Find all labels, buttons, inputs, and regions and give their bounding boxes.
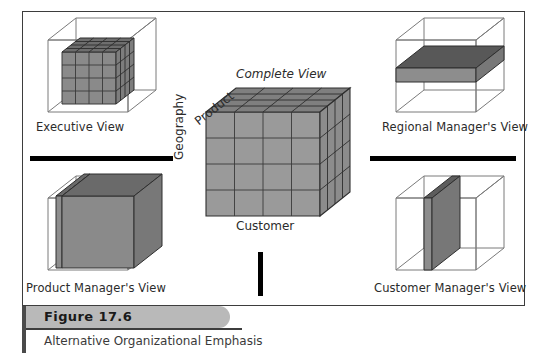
axis-label-customer: Customer — [236, 219, 294, 233]
figure-caption-text: Alternative Organizational Emphasis — [44, 334, 263, 348]
label-executive-view: Executive View — [36, 120, 124, 134]
label-product-manager-view: Product Manager's View — [26, 281, 166, 295]
divider-bar-left — [30, 156, 173, 161]
figure-caption-block: Figure 17.6 Alternative Organizational E… — [22, 306, 525, 353]
caption-divider-rule — [26, 328, 242, 330]
figure-alternative-organizational-emphasis: .wire { fill: none; stroke: #7a7a7a; str… — [0, 0, 547, 353]
axis-label-geography: Geography — [172, 94, 186, 160]
figure-number-label: Figure 17.6 — [44, 309, 132, 324]
label-customer-manager-view: Customer Manager's View — [374, 281, 526, 295]
label-regional-manager-view: Regional Manager's View — [382, 120, 528, 134]
divider-bar-center — [258, 252, 263, 296]
complete-view-title: Complete View — [236, 67, 326, 81]
divider-bar-right — [370, 156, 516, 161]
